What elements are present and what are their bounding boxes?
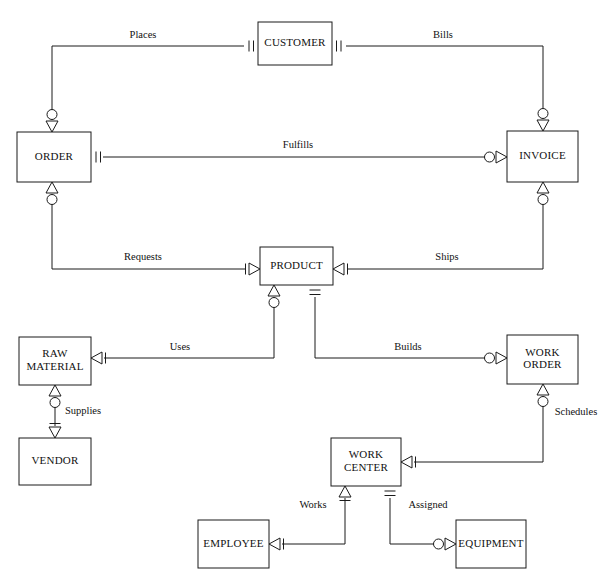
notation-zero-or-many-raw-material-bottom bbox=[49, 385, 61, 408]
entity-label-order: ORDER bbox=[35, 150, 74, 162]
notation-zero-or-many-work-order-bottom bbox=[537, 384, 549, 407]
entity-vendor[interactable]: VENDOR bbox=[19, 438, 91, 485]
entity-employee[interactable]: EMPLOYEE bbox=[198, 520, 269, 568]
relationship-label-places: Places bbox=[130, 29, 157, 40]
connector-bills bbox=[346, 46, 543, 119]
entity-work-order[interactable]: WORKORDER bbox=[507, 335, 578, 384]
entity-label-raw-material: RAW bbox=[42, 347, 68, 359]
notation-zero-or-many-work-order-left bbox=[485, 352, 508, 364]
relationship-label-bills: Bills bbox=[433, 29, 453, 40]
notation-one-or-many-work-center-right bbox=[401, 456, 416, 468]
entity-label-product: PRODUCT bbox=[270, 259, 323, 271]
relationship-label-works: Works bbox=[299, 499, 326, 510]
relationship-label-ships: Ships bbox=[435, 251, 458, 262]
notation-zero-or-many-order-top bbox=[46, 110, 58, 133]
notation-layer bbox=[46, 41, 549, 551]
notation-zero-or-many-order-bottom bbox=[46, 182, 58, 205]
relationship-label-schedules: Schedules bbox=[555, 406, 598, 417]
notation-one-and-only-one-order-right bbox=[96, 152, 101, 163]
notation-one-and-only-one-product-bottom-right bbox=[310, 290, 321, 295]
entity-label-work-center: CENTER bbox=[344, 461, 388, 473]
relationship-label-fulfills: Fulfills bbox=[283, 139, 313, 150]
entity-label-employee: EMPLOYEE bbox=[203, 537, 263, 549]
relationship-label-assigned: Assigned bbox=[408, 499, 448, 510]
notation-one-or-many-product-left bbox=[246, 263, 261, 275]
entity-invoice[interactable]: INVOICE bbox=[507, 131, 578, 182]
connector-schedules bbox=[414, 396, 543, 462]
entity-order[interactable]: ORDER bbox=[17, 132, 91, 182]
entity-label-raw-material: MATERIAL bbox=[26, 360, 83, 372]
entity-label-equipment: EQUIPMENT bbox=[458, 537, 523, 549]
er-diagram-svg: CUSTOMERORDERINVOICEPRODUCTRAWMATERIALVE… bbox=[0, 0, 614, 583]
notation-zero-or-many-invoice-top bbox=[537, 109, 549, 132]
notation-zero-or-many-product-bottom-left bbox=[268, 285, 280, 308]
connector-places bbox=[52, 46, 244, 120]
relationship-label-supplies: Supplies bbox=[65, 405, 101, 416]
notation-zero-or-many-invoice-bottom bbox=[537, 182, 549, 205]
relationship-label-builds: Builds bbox=[394, 341, 421, 352]
connector-layer bbox=[52, 46, 543, 544]
notation-one-and-only-one-customer-left bbox=[249, 41, 254, 52]
relationship-label-uses: Uses bbox=[170, 341, 190, 352]
notation-one-or-many-employee-right bbox=[269, 538, 284, 550]
entity-equipment[interactable]: EQUIPMENT bbox=[456, 520, 526, 568]
entity-label-work-order: ORDER bbox=[523, 358, 562, 370]
relationship-label-requests: Requests bbox=[124, 251, 162, 262]
er-diagram-canvas: CUSTOMERORDERINVOICEPRODUCTRAWMATERIALVE… bbox=[0, 0, 614, 583]
entity-work-center[interactable]: WORKCENTER bbox=[331, 438, 401, 486]
notation-one-and-only-one-customer-right bbox=[337, 41, 342, 52]
entity-label-invoice: INVOICE bbox=[519, 149, 566, 161]
entity-label-work-order: WORK bbox=[525, 346, 559, 358]
entity-layer: CUSTOMERORDERINVOICEPRODUCTRAWMATERIALVE… bbox=[17, 22, 578, 568]
entity-customer[interactable]: CUSTOMER bbox=[258, 22, 332, 65]
notation-one-or-many-raw-material-right bbox=[91, 352, 106, 364]
entity-label-customer: CUSTOMER bbox=[264, 36, 326, 48]
entity-label-work-center: WORK bbox=[349, 448, 383, 460]
entity-label-vendor: VENDOR bbox=[31, 454, 78, 466]
entity-product[interactable]: PRODUCT bbox=[260, 247, 333, 285]
notation-zero-or-many-equipment-left bbox=[434, 538, 457, 550]
notation-one-and-only-one-work-center-bottom-right bbox=[385, 491, 396, 496]
notation-one-or-many-product-right bbox=[333, 263, 348, 275]
entity-raw-material[interactable]: RAWMATERIAL bbox=[19, 337, 91, 385]
notation-zero-or-many-invoice-left bbox=[485, 151, 508, 163]
